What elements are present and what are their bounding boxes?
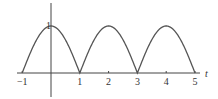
x-tick-label: −1 <box>17 76 28 87</box>
x-tick-label: 2 <box>106 76 111 87</box>
tick-labels: −112345 <box>17 76 198 87</box>
y-tick-label: 1 <box>46 20 51 31</box>
x-tick-label: 5 <box>193 76 198 87</box>
x-tick-label: 4 <box>164 76 169 87</box>
x-tick-label: 3 <box>135 76 140 87</box>
chart: −112345 1 t <box>0 0 218 99</box>
x-tick-label: 1 <box>77 76 82 87</box>
curve-series <box>22 26 195 73</box>
x-axis-label: t <box>205 68 208 79</box>
